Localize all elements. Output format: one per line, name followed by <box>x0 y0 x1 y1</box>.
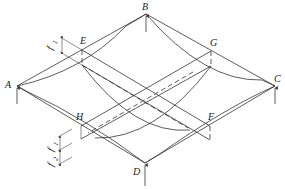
label-f1-top-sub: 1 <box>51 39 60 45</box>
label-f1-bottom-sub: 1 <box>52 141 61 147</box>
label-d: D <box>132 166 141 177</box>
label-a: A <box>4 79 12 90</box>
dimension-f1-f2-bottom: f 1 f 2 <box>45 129 72 168</box>
label-g: G <box>210 37 217 48</box>
cable-net-diagram: f 1 f 1 f 2 B A C D E G H F <box>0 0 285 189</box>
label-f: F <box>207 111 215 122</box>
label-f2-bottom-sub: 2 <box>52 155 61 161</box>
label-f1-top: f <box>44 44 56 52</box>
label-c: C <box>274 73 281 84</box>
label-b: B <box>142 1 148 12</box>
label-h: H <box>75 111 84 122</box>
label-e: E <box>79 35 86 46</box>
label-f1-bottom: f <box>45 145 57 153</box>
cross-lines <box>81 50 211 140</box>
label-f2-bottom: f <box>45 160 57 168</box>
